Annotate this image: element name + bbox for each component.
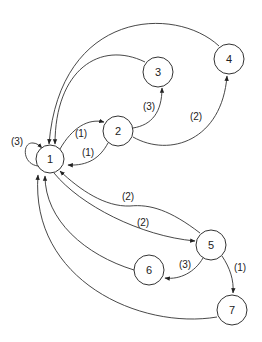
node-5: 5 — [196, 230, 226, 260]
edge-label-1-5: (2) — [137, 217, 149, 228]
node-1: 1 — [36, 145, 64, 173]
node-6-label: 6 — [146, 264, 152, 276]
edge-label-1-2: (1) — [75, 128, 87, 139]
node-2: 2 — [103, 116, 133, 146]
edge-label-5-7: (1) — [234, 262, 246, 273]
node-4-label: 4 — [226, 53, 232, 65]
edge-1-5 — [54, 173, 195, 241]
node-3-label: 3 — [155, 66, 161, 78]
edge-5-7 — [222, 256, 233, 293]
edge-label-5-1: (2) — [122, 191, 134, 202]
node-3: 3 — [143, 57, 173, 87]
node-6: 6 — [134, 255, 164, 285]
state-transition-diagram: (3) (1) (1) (3) (2) (2) (2) (3) (1) 1 2 … — [0, 0, 262, 342]
node-5-label: 5 — [208, 239, 214, 251]
edge-label-2-3: (3) — [143, 101, 155, 112]
edge-4-1 — [49, 23, 219, 144]
node-7: 7 — [217, 295, 247, 325]
edge-6-1 — [45, 176, 134, 270]
node-2-label: 2 — [115, 125, 121, 137]
edge-label-2-4: (2) — [190, 111, 202, 122]
edge-label-1-1: (3) — [11, 136, 23, 147]
node-4: 4 — [214, 44, 244, 74]
edge-label-2-1: (1) — [82, 147, 94, 158]
node-7-label: 7 — [229, 304, 235, 316]
edge-label-5-6: (3) — [179, 259, 191, 270]
edge-5-1 — [60, 171, 200, 233]
node-1-label: 1 — [47, 153, 53, 165]
